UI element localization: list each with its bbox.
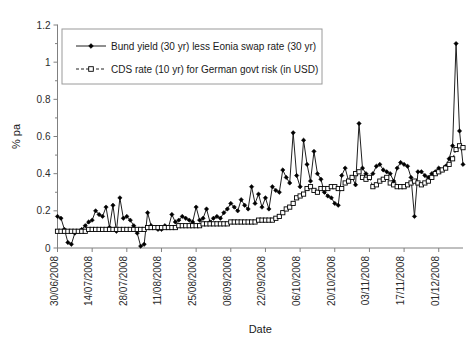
y-tick-label: 0 bbox=[45, 243, 51, 254]
legend-label-cds-rate: CDS rate (10 yr) for German govt risk (i… bbox=[111, 64, 318, 75]
x-tick-label: 14/07/2008 bbox=[83, 256, 94, 306]
data-point-marker bbox=[353, 183, 357, 187]
x-tick-label: 01/12/2008 bbox=[430, 256, 441, 306]
x-tick-label: 22/09/2008 bbox=[256, 256, 267, 306]
data-point-marker bbox=[298, 184, 302, 188]
data-point-marker bbox=[260, 205, 264, 209]
data-point-marker bbox=[340, 186, 344, 190]
x-tick-label: 25/08/2008 bbox=[187, 256, 198, 306]
data-point-marker bbox=[385, 175, 389, 179]
data-point-marker bbox=[461, 146, 465, 150]
data-point-marker bbox=[263, 196, 267, 200]
data-point-marker bbox=[447, 162, 451, 166]
data-point-marker bbox=[357, 170, 361, 174]
data-point-marker bbox=[281, 168, 285, 172]
y-tick-label: 0.2 bbox=[37, 205, 51, 216]
x-tick-label: 03/11/2008 bbox=[360, 256, 371, 306]
data-point-marker bbox=[194, 205, 198, 209]
data-point-marker bbox=[294, 173, 298, 177]
data-point-marker bbox=[253, 201, 257, 205]
legend-swatch-marker-cds bbox=[89, 67, 94, 72]
data-point-marker bbox=[305, 162, 309, 166]
y-tick-label: 1.2 bbox=[37, 20, 51, 31]
chart-figure: 00.20.40.60.811.230/06/200814/07/200828/… bbox=[0, 0, 475, 343]
x-tick-label: 08/09/2008 bbox=[222, 256, 233, 306]
data-point-marker bbox=[249, 184, 253, 188]
x-tick-label: 06/10/2008 bbox=[291, 256, 302, 306]
x-tick-label: 20/10/2008 bbox=[326, 256, 337, 306]
y-tick-label: 1 bbox=[45, 57, 51, 68]
data-point-marker bbox=[412, 214, 416, 218]
data-point-marker bbox=[451, 157, 455, 161]
data-point-marker bbox=[357, 121, 361, 125]
data-point-marker bbox=[454, 41, 458, 45]
x-tick-label: 30/06/2008 bbox=[49, 256, 60, 306]
x-tick-label: 28/07/2008 bbox=[118, 256, 129, 306]
data-point-marker bbox=[457, 129, 461, 133]
data-point-marker bbox=[367, 175, 371, 179]
data-point-marker bbox=[343, 166, 347, 170]
x-tick-label: 11/08/2008 bbox=[152, 256, 163, 306]
y-axis-title: % pa bbox=[10, 123, 22, 149]
data-point-marker bbox=[104, 205, 108, 209]
data-point-marker bbox=[291, 201, 295, 205]
y-tick-label: 0.8 bbox=[37, 94, 51, 105]
y-tick-label: 0.4 bbox=[37, 168, 51, 179]
data-point-marker bbox=[204, 207, 208, 211]
legend-box bbox=[62, 29, 322, 84]
data-point-marker bbox=[301, 138, 305, 142]
chart-canvas: 00.20.40.60.811.230/06/200814/07/200828/… bbox=[0, 0, 475, 343]
data-point-marker bbox=[461, 162, 465, 166]
data-point-marker bbox=[312, 149, 316, 153]
data-point-marker bbox=[256, 192, 260, 196]
x-tick-label: 17/11/2008 bbox=[395, 256, 406, 306]
data-point-marker bbox=[170, 212, 174, 216]
data-point-marker bbox=[267, 207, 271, 211]
data-point-marker bbox=[291, 131, 295, 135]
data-point-marker bbox=[339, 173, 343, 177]
data-point-marker bbox=[145, 210, 149, 214]
data-point-marker bbox=[308, 179, 312, 183]
legend-label-bund-yield: Bund yield (30 yr) less Eonia swap rate … bbox=[111, 41, 316, 52]
data-point-marker bbox=[301, 192, 305, 196]
data-point-marker bbox=[111, 203, 115, 207]
x-axis-title: Date bbox=[249, 323, 272, 335]
y-tick-label: 0.6 bbox=[37, 131, 51, 142]
data-point-marker bbox=[118, 196, 122, 200]
